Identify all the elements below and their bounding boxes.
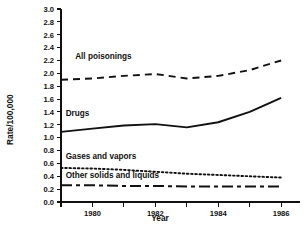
series-annotations: All poisoningsDrugsGases and vaporsOther… [66, 52, 160, 180]
y-tick-label: 2.4 [43, 43, 54, 52]
chart-canvas: Rate/100,000 0.00.20.40.60.81.01.21.41.6… [0, 0, 307, 227]
series-annotation-label: Drugs [66, 109, 90, 118]
y-tick-label: 0.0 [43, 198, 54, 207]
poisoning-rate-line-chart: Rate/100,000 0.00.20.40.60.81.01.21.41.6… [0, 0, 307, 227]
x-tick-label: 1986 [273, 209, 290, 218]
y-tick-label: 1.8 [43, 82, 54, 91]
y-axis-title-group: Rate/100,000 [5, 94, 15, 145]
y-tick-label: 2.8 [43, 18, 54, 27]
y-tick-label: 1.0 [43, 133, 54, 142]
series-annotation-label: All poisonings [75, 52, 132, 61]
y-tick-label: 1.6 [43, 95, 54, 104]
y-tick-label: 1.2 [43, 121, 54, 130]
x-axis-title: Year [151, 213, 169, 223]
series-annotation-label: Other solids and liquids [66, 171, 160, 180]
x-axis-tick-labels: 1980198219841986 [84, 209, 290, 218]
series-annotation-label: Gases and vapors [66, 152, 137, 161]
series-line [61, 60, 281, 79]
y-tick-label: 1.4 [43, 108, 54, 117]
y-axis-tick-labels: 0.00.20.40.60.81.01.21.41.61.82.02.22.42… [43, 5, 54, 207]
x-tick-label: 1980 [84, 209, 101, 218]
y-tick-label: 0.4 [43, 172, 54, 181]
series-lines [61, 60, 281, 186]
y-tick-label: 0.8 [43, 146, 54, 155]
y-tick-label: 2.0 [43, 69, 54, 78]
series-line [61, 98, 281, 132]
series-line [61, 185, 281, 186]
y-tick-label: 0.2 [43, 185, 54, 194]
y-tick-label: 0.6 [43, 159, 54, 168]
y-tick-label: 2.2 [43, 56, 54, 65]
y-axis-title: Rate/100,000 [5, 94, 15, 145]
y-tick-label: 2.6 [43, 31, 54, 40]
x-tick-label: 1984 [210, 209, 228, 218]
y-tick-label: 3.0 [43, 5, 54, 14]
